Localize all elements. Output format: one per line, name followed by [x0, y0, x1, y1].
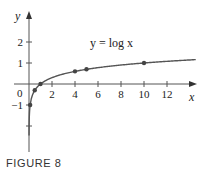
log-graph: 24681012−112 x y 0 y = log x [0, 0, 200, 175]
curve-label: y = log x [90, 36, 133, 50]
x-tick-label: 12 [162, 88, 173, 100]
x-tick-label: 4 [72, 88, 78, 100]
x-axis-arrow-icon [189, 81, 197, 87]
y-axis-arrow-icon [26, 11, 32, 19]
data-point [142, 61, 146, 65]
data-point [73, 69, 77, 73]
y-axis-label: y [14, 9, 21, 23]
y-tick-label: 2 [18, 36, 24, 48]
x-tick-label: 10 [139, 88, 151, 100]
x-axis-label: x [188, 90, 195, 104]
data-point [33, 88, 37, 92]
y-tick-label: 1 [18, 57, 24, 69]
y-tick-label: −1 [11, 99, 23, 111]
axes [14, 11, 197, 152]
origin-label: 0 [17, 87, 23, 99]
x-tick-label: 2 [49, 88, 55, 100]
data-point [84, 67, 88, 71]
data-point [38, 82, 42, 86]
x-tick-label: 8 [118, 88, 124, 100]
data-point [28, 103, 32, 107]
x-tick-label: 6 [95, 88, 101, 100]
figure-caption: FIGURE 8 [6, 157, 62, 169]
